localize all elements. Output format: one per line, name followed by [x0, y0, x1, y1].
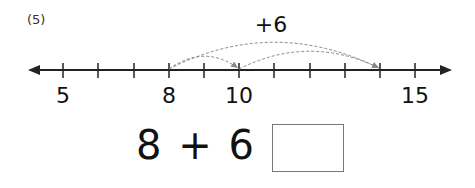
- tick-label-10: 10: [225, 83, 253, 108]
- answer-box[interactable]: [272, 124, 344, 172]
- right-arrow-icon: [440, 65, 452, 75]
- left-arrow-icon: [28, 65, 40, 75]
- tick-label-8: 8: [162, 83, 176, 108]
- arc-10-to-14: [239, 51, 379, 69]
- tick-label-5: 5: [56, 83, 70, 108]
- tick-label-15: 15: [401, 83, 429, 108]
- number-line-problem: (5) +6: [0, 0, 475, 188]
